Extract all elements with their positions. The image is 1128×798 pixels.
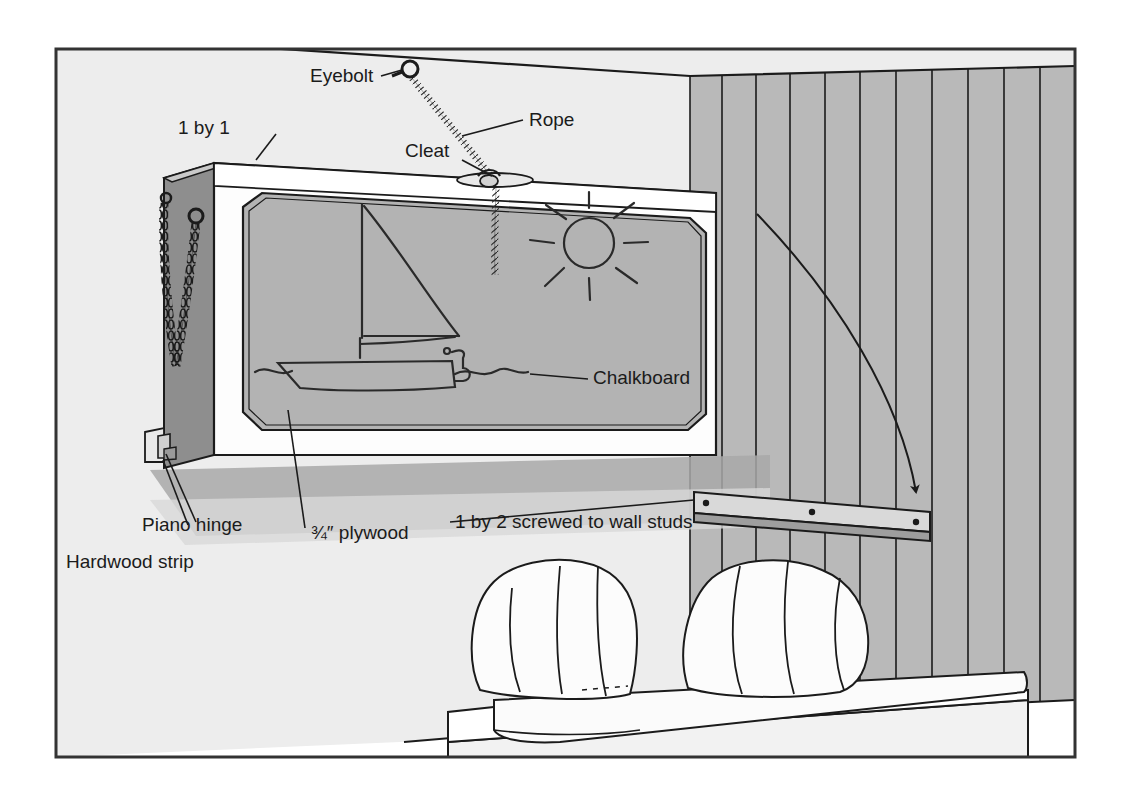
label-one-by-two: 1 by 2 screwed to wall studs	[455, 511, 693, 532]
label-chalkboard: Chalkboard	[593, 367, 690, 388]
label-hardwood-strip: Hardwood strip	[66, 551, 194, 572]
label-piano-hinge: Piano hinge	[142, 514, 242, 535]
screw-dot	[809, 509, 815, 515]
label-eyebolt: Eyebolt	[310, 65, 374, 86]
label-plywood: ¾″ plywood	[311, 522, 409, 543]
screw-dot	[703, 500, 709, 506]
illustration-figure: Eyebolt Rope 1 by 1 Cleat Chalkboard Pia…	[0, 0, 1128, 798]
technical-illustration: Eyebolt Rope 1 by 1 Cleat Chalkboard Pia…	[0, 0, 1128, 798]
chalkboard-panel	[243, 193, 706, 430]
label-cleat: Cleat	[405, 140, 450, 161]
label-one-by-one: 1 by 1	[178, 117, 230, 138]
label-rope: Rope	[529, 109, 574, 130]
screw-dot	[913, 519, 919, 525]
scene	[56, 34, 1075, 758]
